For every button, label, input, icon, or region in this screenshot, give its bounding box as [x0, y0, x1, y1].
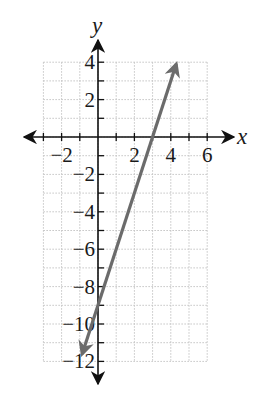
coordinate-plane: −224642−2−4−6−8−10−12 x y [0, 0, 262, 395]
y-tick-label: 4 [85, 50, 96, 74]
y-tick-label: −6 [73, 237, 95, 261]
y-tick-label: 2 [85, 88, 96, 112]
x-tick-label: 4 [166, 143, 177, 167]
y-tick-label: −8 [73, 275, 95, 299]
y-tick-label: −2 [73, 162, 95, 186]
x-tick-label: 2 [129, 143, 140, 167]
x-tick-label: 6 [202, 143, 213, 167]
y-tick-label: −4 [73, 200, 96, 224]
x-tick-label: −2 [50, 143, 72, 167]
x-axis-label: x [236, 124, 248, 149]
y-tick-label: −12 [62, 349, 95, 373]
line-series [82, 64, 176, 354]
plotted-line [82, 64, 176, 354]
y-axis-label: y [90, 13, 103, 38]
